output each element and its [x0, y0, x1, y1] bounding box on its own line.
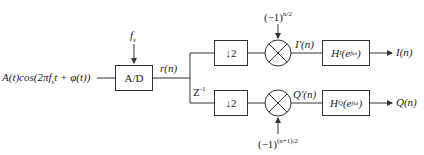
downsample-label-q: ↓2	[226, 97, 237, 109]
downsample-block-i: ↓2	[214, 40, 248, 66]
adc-block-label: A/D	[125, 72, 144, 84]
filter-block-q: HQ(ejω)	[322, 90, 370, 116]
sampling-frequency-label: fs	[130, 30, 136, 44]
mixer-output-label-i: I'(n)	[295, 39, 314, 50]
downsample-block-q: ↓2	[214, 90, 248, 116]
mixer-input-label-i: (−1)n/2	[264, 11, 292, 23]
output-label-i: I(n)	[396, 47, 413, 58]
input-signal-label: A(t)cos(2πfst + φ(t))	[2, 72, 90, 86]
output-label-q: Q(n)	[396, 97, 417, 108]
adc-block: A/D	[115, 65, 153, 91]
downsample-label-i: ↓2	[226, 47, 237, 59]
filter-block-i: HI(ejω)	[322, 40, 370, 66]
adc-output-label: r(n)	[160, 63, 177, 74]
delay-label: Z-1	[193, 86, 206, 98]
mixer-output-label-q: Q'(n)	[293, 89, 316, 100]
mixer-input-label-q: (−1)(n+1)/2	[258, 138, 298, 150]
